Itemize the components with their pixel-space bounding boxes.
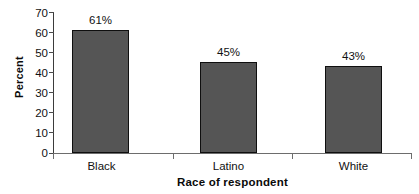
y-tick-label: 50 bbox=[22, 48, 48, 58]
bar-latino[interactable] bbox=[200, 62, 257, 153]
x-axis-tick bbox=[411, 154, 412, 159]
y-tick-label: 60 bbox=[22, 28, 48, 38]
x-axis-title: Race of respondent bbox=[53, 176, 412, 188]
bar-chart: Percent 70 60 50 40 30 20 10 0 61% 45% 4… bbox=[0, 0, 419, 194]
y-tick-label: 0 bbox=[22, 148, 48, 158]
y-axis-tick-labels: 70 60 50 40 30 20 10 0 bbox=[22, 0, 48, 194]
bar-value-black: 61% bbox=[72, 14, 129, 26]
x-tick-label-black: Black bbox=[73, 160, 130, 173]
plot-area bbox=[54, 12, 412, 153]
x-tick-label-latino: Latino bbox=[200, 160, 257, 173]
bar-value-white: 43% bbox=[325, 50, 382, 62]
y-tick-label: 20 bbox=[22, 108, 48, 118]
y-tick-label: 70 bbox=[22, 8, 48, 18]
x-axis-tick bbox=[292, 154, 293, 159]
bar-black[interactable] bbox=[72, 30, 129, 153]
y-tick-label: 30 bbox=[22, 88, 48, 98]
x-axis-tick bbox=[53, 154, 54, 159]
y-tick-label: 10 bbox=[22, 128, 48, 138]
x-tick-label-white: White bbox=[325, 160, 382, 173]
y-tick-label: 40 bbox=[22, 68, 48, 78]
x-axis-line bbox=[53, 153, 412, 154]
bar-value-latino: 45% bbox=[200, 46, 257, 58]
bar-white[interactable] bbox=[325, 66, 382, 153]
x-axis-tick bbox=[173, 154, 174, 159]
